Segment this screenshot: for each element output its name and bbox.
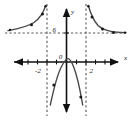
right-branch-curve	[88, 6, 126, 33]
data-point-marker	[101, 28, 104, 31]
data-point-marker	[91, 16, 94, 19]
data-point-marker	[41, 13, 44, 16]
x-tick-label-two: 2	[90, 67, 94, 75]
data-point-marker	[124, 31, 126, 33]
data-point-marker	[30, 23, 33, 26]
data-point-marker	[9, 29, 11, 31]
graph-figure: -2 2 6 0 y x	[0, 0, 133, 120]
left-branch-curve	[8, 6, 46, 31]
coordinate-plane: -2 2 6 0 y x	[0, 0, 133, 120]
data-point-marker	[44, 5, 46, 7]
data-point-marker	[52, 84, 55, 87]
y-axis-arrow-up-icon	[63, 8, 70, 17]
origin-label: 0	[59, 53, 63, 61]
x-tick-label-minus-two: -2	[35, 67, 41, 75]
x-axis-label: x	[123, 54, 128, 62]
y-axis-label: y	[70, 8, 75, 16]
x-axis-arrow-right-icon	[110, 58, 119, 66]
y-tick-label-six: 6	[53, 26, 57, 34]
data-point-marker	[112, 31, 115, 34]
data-point-marker	[79, 96, 82, 99]
y-axis-arrow-down-icon	[63, 104, 70, 113]
data-point-marker	[87, 5, 89, 7]
x-axis-arrow-left-icon	[14, 58, 23, 66]
